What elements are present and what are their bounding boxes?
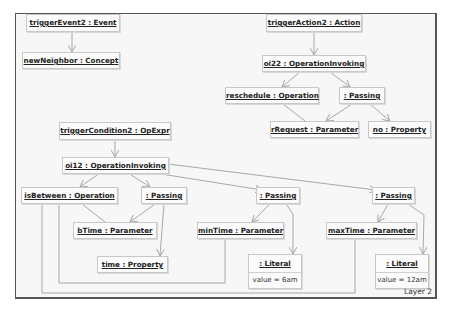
node-title: oi22 : OperationInvoking xyxy=(263,56,365,71)
node-title: isBetween : Operation xyxy=(22,188,117,203)
node-passing-right[interactable]: : Passing xyxy=(372,187,415,204)
node-attribute: value = 6am xyxy=(249,272,301,288)
node-trigger-event2[interactable]: triggerEvent2 : Event xyxy=(26,14,120,32)
node-passing-mid[interactable]: : Passing xyxy=(256,187,300,204)
node-max-time[interactable]: maxTime : Parameter xyxy=(326,222,417,239)
node-title: reschedule : Operation xyxy=(226,88,318,103)
node-new-neighbor[interactable]: newNeighbor : Concept xyxy=(22,52,120,69)
node-attribute: value = 12am xyxy=(376,272,428,288)
node-title: triggerEvent2 : Event xyxy=(27,15,119,30)
node-oi22[interactable]: oi22 : OperationInvoking xyxy=(262,55,366,72)
node-trigger-condition2[interactable]: triggerCondition2 : OpExpr xyxy=(59,122,171,140)
node-title: bTime : Parameter xyxy=(74,223,156,238)
node-title: no : Property xyxy=(369,122,430,137)
node-title: maxTime : Parameter xyxy=(327,223,416,238)
node-rrequest[interactable]: rRequest : Parameter xyxy=(270,121,359,138)
node-title: oi12 : OperationInvoking xyxy=(63,158,168,173)
node-title: triggerCondition2 : OpExpr xyxy=(60,123,170,138)
node-literal-12am[interactable]: : Literal value = 12am xyxy=(375,254,429,289)
node-title: newNeighbor : Concept xyxy=(23,53,119,68)
node-title: : Literal xyxy=(376,255,428,272)
node-no-property[interactable]: no : Property xyxy=(368,121,431,138)
node-reschedule[interactable]: reschedule : Operation xyxy=(225,87,319,104)
node-title: : Passing xyxy=(373,188,414,203)
node-title: minTime : Parameter xyxy=(198,223,283,238)
node-passing-top[interactable]: : Passing xyxy=(339,87,385,104)
node-btime[interactable]: bTime : Parameter xyxy=(73,222,157,239)
node-oi12[interactable]: oi12 : OperationInvoking xyxy=(62,157,169,174)
node-title: : Passing xyxy=(142,188,186,203)
node-title: : Literal xyxy=(249,255,301,272)
node-title: : Passing xyxy=(257,188,299,203)
node-title: rRequest : Parameter xyxy=(271,122,358,137)
node-min-time[interactable]: minTime : Parameter xyxy=(197,222,284,239)
node-literal-6am[interactable]: : Literal value = 6am xyxy=(248,254,302,289)
node-time-property[interactable]: time : Property xyxy=(97,256,168,273)
node-is-between[interactable]: isBetween : Operation xyxy=(21,187,118,204)
node-title: triggerAction2 : Action xyxy=(267,15,361,30)
node-trigger-action2[interactable]: triggerAction2 : Action xyxy=(266,14,362,32)
node-title: : Passing xyxy=(340,88,384,103)
node-passing-left[interactable]: : Passing xyxy=(141,187,187,204)
node-title: time : Property xyxy=(98,257,167,272)
layer-label: Layer 2 xyxy=(404,287,432,296)
